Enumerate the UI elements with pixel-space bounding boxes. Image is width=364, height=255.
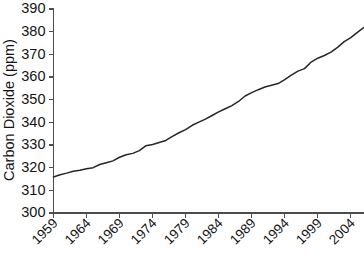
y-axis-title-group: Carbon Dioxide (ppm) [1,39,17,181]
y-tick-label: 330 [21,136,45,152]
y-tick-label: 310 [21,182,45,198]
y-tick-label: 380 [21,23,45,39]
y-tick-label: 370 [21,46,45,62]
x-tick-label: 1969 [95,216,127,248]
x-tick-label: 1989 [227,216,259,248]
x-tick-label: 1984 [194,215,226,247]
y-tick-label: 300 [21,204,45,220]
y-tick-label: 390 [21,0,45,16]
x-tick-label: 2004 [326,215,358,247]
y-axis-tick-labels: 300310320330340350360370380390 [21,0,45,220]
x-tick-label: 1964 [62,215,94,247]
x-tick-label: 1994 [260,215,292,247]
x-tick-label: 1979 [161,216,193,248]
y-tick-label: 320 [21,159,45,175]
axis-tick-marks [49,9,351,218]
x-tick-label: 1974 [128,215,160,247]
y-tick-label: 340 [21,114,45,130]
co2-line-chart: Carbon Dioxide (ppm) 3003103203303403503… [0,0,364,255]
x-axis-tick-labels: 1959196419691974197919841989199419992004 [29,215,358,247]
y-axis-title: Carbon Dioxide (ppm) [1,39,17,181]
co2-series-line [54,27,364,177]
chart-canvas: Carbon Dioxide (ppm) 3003103203303403503… [0,0,364,255]
y-tick-label: 360 [21,68,45,84]
x-tick-label: 1999 [293,216,325,248]
y-tick-label: 350 [21,91,45,107]
